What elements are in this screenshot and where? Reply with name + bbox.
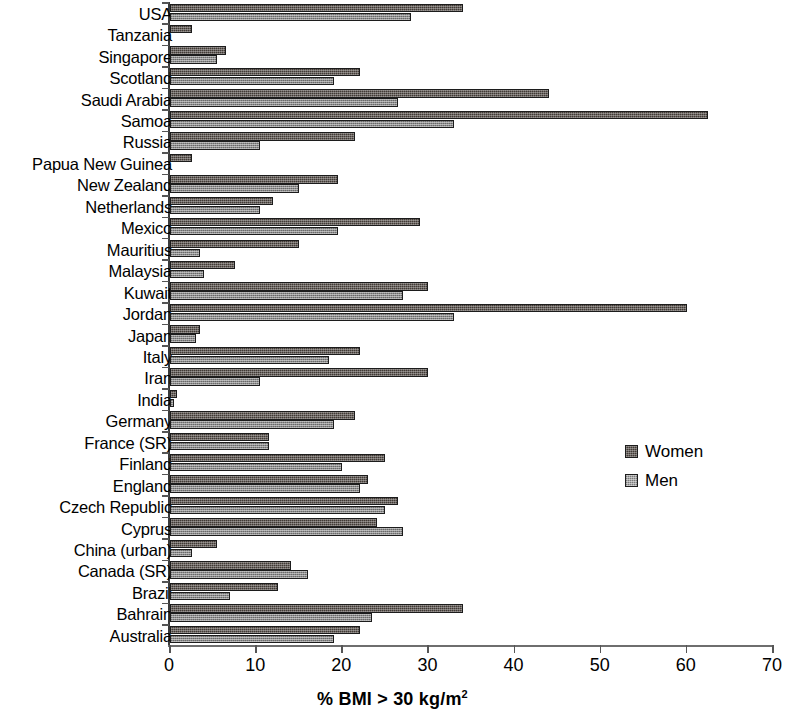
y-axis-tick [162,538,169,540]
bar-women [170,347,360,355]
category-label: India [137,391,172,408]
y-axis-tick [162,88,169,90]
bar-women [170,583,278,591]
bar-women [170,540,217,548]
y-axis-tick [162,324,169,326]
bar-men [170,484,360,492]
bar-men [170,270,204,278]
bar-women [170,518,377,526]
category-label: Czech Republic [59,499,172,516]
y-axis-tick [162,452,169,454]
y-axis-tick [162,23,169,25]
chart-row: Germany [0,411,785,433]
bar-women [170,561,291,569]
bar-women [170,325,200,333]
y-axis-tick [162,131,169,133]
chart-row: Italy [0,346,785,368]
category-label: Kuwait [124,284,172,301]
bar-women [170,218,420,226]
x-axis-tick-label: 60 [676,655,696,676]
bar-men [170,291,403,299]
chart-row: Cyprus [0,518,785,540]
bar-men [170,120,454,128]
bar-men [170,206,260,214]
category-label: Japan [128,327,172,344]
category-label: Papua New Guinea [32,155,172,172]
category-label: Scotland [109,70,172,87]
category-label: USA [139,5,172,22]
category-label: Mauritius [107,241,172,258]
legend-item: Women [625,443,703,460]
y-axis-tick [162,217,169,219]
y-axis-tick [162,410,169,412]
bar-women [170,68,360,76]
chart-row: Mexico [0,218,785,240]
bar-rows-container: USATanzaniaSingaporeScotlandSaudi Arabia… [0,0,785,645]
legend: WomenMen [625,443,703,501]
chart-row: Tanzania [0,24,785,46]
x-axis-tick-label: 70 [762,655,782,676]
chart-row: Mauritius [0,239,785,261]
category-label: Australia [110,627,172,644]
x-axis-tick [341,645,343,653]
category-label: Iran [144,370,172,387]
bar-men [170,506,385,514]
bmi-obesity-bar-chart: USATanzaniaSingaporeScotlandSaudi Arabia… [0,0,785,725]
y-axis-tick [162,174,169,176]
x-axis-tick [514,645,516,653]
bar-women [170,411,355,419]
chart-row: Saudi Arabia [0,89,785,111]
y-axis-tick [162,431,169,433]
bar-women [170,4,463,12]
category-label: France (SR) [84,434,172,451]
y-axis-tick [162,517,169,519]
bar-women [170,132,355,140]
bar-men [170,420,334,428]
chart-row: Singapore [0,46,785,68]
y-axis-tick [162,45,169,47]
chart-row: Netherlands [0,196,785,218]
category-label: Russia [123,134,172,151]
bar-women [170,304,687,312]
category-label: Saudi Arabia [81,91,172,108]
legend-label: Women [645,443,703,460]
chart-row: USA [0,3,785,25]
category-label: Bahrain [117,606,172,623]
bar-women [170,111,708,119]
x-axis-tick [169,645,171,653]
bar-men [170,55,217,63]
chart-row: Kuwait [0,282,785,304]
chart-row: Canada (SR) [0,561,785,583]
x-axis-tick [427,645,429,653]
bar-women [170,454,385,462]
y-axis-tick [162,259,169,261]
chart-row: Samoa [0,110,785,132]
y-axis-tick [162,474,169,476]
x-axis-tick-label: 20 [331,655,351,676]
chart-row: New Zealand [0,175,785,197]
x-axis-tick-label: 10 [245,655,265,676]
category-label: New Zealand [77,177,172,194]
category-label: Italy [143,348,172,365]
bar-women [170,154,192,162]
bar-men [170,77,334,85]
chart-row: Malaysia [0,260,785,282]
bar-men [170,249,200,257]
x-axis-title-superscript: 2 [462,688,468,700]
x-axis-tick [686,645,688,653]
x-axis-tick-label: 30 [417,655,437,676]
bar-men [170,141,260,149]
bar-men [170,356,329,364]
chart-row: Brazil [0,582,785,604]
y-axis-tick [162,603,169,605]
y-axis-tick [162,624,169,626]
y-axis-tick [162,302,169,304]
bar-men [170,527,403,535]
bar-men [170,549,192,557]
y-axis-tick [162,560,169,562]
bar-women [170,433,269,441]
category-label: Mexico [121,220,172,237]
y-axis-tick [162,281,169,283]
bar-men [170,334,196,342]
y-axis-tick [162,2,169,4]
